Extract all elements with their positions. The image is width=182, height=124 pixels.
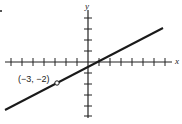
coordinate-plane: y x (−3, −2) bbox=[0, 0, 182, 124]
open-point-marker bbox=[55, 81, 59, 85]
point-label: (−3, −2) bbox=[18, 74, 50, 84]
y-axis-label: y bbox=[84, 1, 89, 11]
corner-mark bbox=[0, 10, 2, 12]
x-axis-label: x bbox=[174, 56, 179, 66]
